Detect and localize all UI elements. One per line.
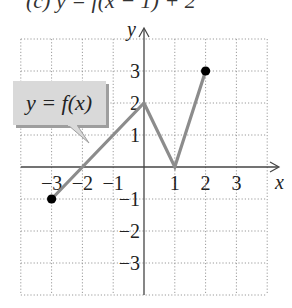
- y-axis-label: y: [125, 18, 136, 41]
- graph-figure: (c) y = f(x − 1) + 2 xy −3−2−1123−3−2−11…: [0, 0, 292, 308]
- y-tick-label: 1: [130, 124, 140, 146]
- x-tick-label: 3: [231, 172, 241, 194]
- partial-title: (c) y = f(x − 1) + 2: [0, 0, 292, 8]
- function-plot: xy −3−2−1123−3−2−1123 y = f(x): [0, 0, 292, 308]
- closed-endpoint: [201, 66, 210, 75]
- x-tick-label: 2: [201, 172, 211, 194]
- closed-endpoint: [47, 194, 56, 203]
- x-tick-label: 1: [170, 172, 180, 194]
- y-tick-label: −2: [119, 220, 140, 242]
- callout-text: y = f(x): [24, 90, 92, 115]
- callout-label: y = f(x): [13, 81, 109, 143]
- axes: xy: [21, 18, 284, 295]
- y-tick-label: −3: [119, 252, 140, 274]
- x-axis-label: x: [274, 171, 284, 193]
- y-tick-label: −1: [119, 188, 140, 210]
- y-tick-label: 3: [130, 60, 140, 82]
